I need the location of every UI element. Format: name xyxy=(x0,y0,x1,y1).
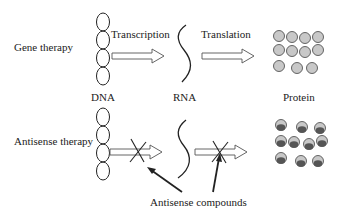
row-label-antisense-therapy: Antisense therapy xyxy=(14,135,94,147)
dna-strand-antisense xyxy=(97,108,110,180)
transcription-arrow xyxy=(112,49,164,63)
translation-arrow xyxy=(202,49,254,63)
annotation-antisense-compounds: Antisense compounds xyxy=(150,196,247,208)
step-label-translation: Translation xyxy=(201,28,251,40)
bound-protein-cluster xyxy=(276,120,328,167)
translation-arrow-blocked xyxy=(195,145,247,159)
rna-strand-antisense xyxy=(178,120,189,178)
row-label-gene-therapy: Gene therapy xyxy=(14,41,73,53)
rna-strand-gene xyxy=(178,25,190,82)
label-protein: Protein xyxy=(283,91,315,103)
step-label-transcription: Transcription xyxy=(111,28,170,40)
label-rna: RNA xyxy=(173,91,196,103)
diagram: Gene therapy Antisense therapy Transcrip… xyxy=(0,0,343,219)
protein-cluster xyxy=(274,31,324,74)
dna-strand-gene xyxy=(97,13,110,85)
label-dna: DNA xyxy=(91,91,115,103)
